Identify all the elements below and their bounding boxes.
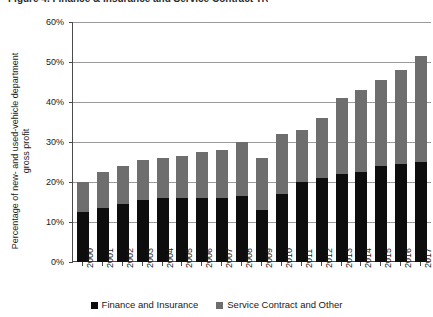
- legend-label: Finance and Insurance: [102, 300, 199, 310]
- bar-segment[interactable]: [77, 182, 89, 212]
- bar-segment[interactable]: [256, 158, 268, 210]
- bar-segment[interactable]: [395, 70, 407, 164]
- bar-segment[interactable]: [137, 160, 149, 200]
- x-axis-tick-label: 2009: [265, 248, 274, 268]
- x-axis-tick-label: 2008: [245, 248, 254, 268]
- x-axis-tick-mark: [241, 262, 242, 266]
- legend-swatch-icon: [216, 302, 223, 309]
- legend-entry[interactable]: Finance and Insurance: [91, 300, 199, 310]
- bar-segment[interactable]: [97, 172, 109, 208]
- x-axis-tick-label: 2001: [106, 248, 115, 268]
- bar-segment[interactable]: [236, 142, 248, 196]
- x-axis-ticks: 2000200120022003200420052006200720082009…: [72, 262, 430, 302]
- bar-segment[interactable]: [117, 166, 129, 204]
- y-axis-tick-label: 10%: [24, 218, 64, 227]
- chart-title-clipped: Figure 4. Finance & Insurance and Servic…: [8, 0, 268, 4]
- y-axis-tick-label: 40%: [24, 98, 64, 107]
- x-axis-tick-mark: [181, 262, 182, 266]
- x-axis-tick-mark: [321, 262, 322, 266]
- x-axis-tick-mark: [162, 262, 163, 266]
- bar-segment[interactable]: [196, 152, 208, 198]
- bar-segment[interactable]: [216, 150, 228, 198]
- x-axis-tick-label: 2012: [325, 248, 334, 268]
- x-axis-tick-mark: [400, 262, 401, 266]
- x-axis-tick-label: 2014: [364, 248, 373, 268]
- legend-entry[interactable]: Service Contract and Other: [216, 300, 342, 310]
- bar-segment[interactable]: [336, 98, 348, 174]
- plot-area: 0%10%20%30%40%50%60%: [72, 22, 430, 262]
- y-axis-tick-label: 60%: [24, 18, 64, 27]
- chart-legend: Finance and InsuranceService Contract an…: [0, 300, 433, 310]
- x-axis-tick-label: 2003: [146, 248, 155, 268]
- x-axis-tick-label: 2010: [285, 248, 294, 268]
- bar-segment[interactable]: [176, 156, 188, 198]
- x-axis-tick-label: 2013: [345, 248, 354, 268]
- bar-segment[interactable]: [375, 80, 387, 166]
- x-axis-tick-mark: [221, 262, 222, 266]
- y-axis-tick-label: 30%: [24, 138, 64, 147]
- x-axis-tick-mark: [281, 262, 282, 266]
- x-axis-tick-label: 2015: [384, 248, 393, 268]
- x-axis-tick-mark: [360, 262, 361, 266]
- bar-segment[interactable]: [316, 118, 328, 178]
- x-axis-tick-mark: [301, 262, 302, 266]
- y-axis-tick-label: 50%: [24, 58, 64, 67]
- x-axis-tick-label: 2000: [86, 248, 95, 268]
- x-axis-tick-label: 2011: [305, 249, 314, 268]
- y-axis-tick-label: 20%: [24, 178, 64, 187]
- bar-segment[interactable]: [296, 130, 308, 182]
- x-axis-tick-mark: [201, 262, 202, 266]
- x-axis-tick-label: 2016: [404, 248, 413, 268]
- x-axis-tick-mark: [380, 262, 381, 266]
- bars-layer: [73, 22, 431, 262]
- x-axis-tick-label: 2005: [185, 248, 194, 268]
- x-axis-tick-label: 2004: [166, 248, 175, 268]
- bar-segment[interactable]: [276, 134, 288, 194]
- x-axis-tick-mark: [82, 262, 83, 266]
- x-axis-tick-mark: [341, 262, 342, 266]
- x-axis-tick-mark: [142, 262, 143, 266]
- x-axis-tick-mark: [420, 262, 421, 266]
- x-axis-tick-mark: [102, 262, 103, 266]
- bar-segment[interactable]: [415, 56, 427, 162]
- x-axis-tick-label: 2017: [424, 248, 433, 268]
- x-axis-tick-mark: [261, 262, 262, 266]
- legend-label: Service Contract and Other: [227, 300, 342, 310]
- x-axis-tick-label: 2006: [205, 248, 214, 268]
- x-axis-tick-label: 2007: [225, 248, 234, 268]
- x-axis-tick-mark: [122, 262, 123, 266]
- bar-segment[interactable]: [355, 90, 367, 172]
- bar-segment[interactable]: [157, 158, 169, 198]
- y-axis-tick-label: 0%: [24, 258, 64, 267]
- x-axis-tick-label: 2002: [126, 248, 135, 268]
- legend-swatch-icon: [91, 302, 98, 309]
- stacked-bar-chart: Figure 4. Finance & Insurance and Servic…: [0, 0, 433, 317]
